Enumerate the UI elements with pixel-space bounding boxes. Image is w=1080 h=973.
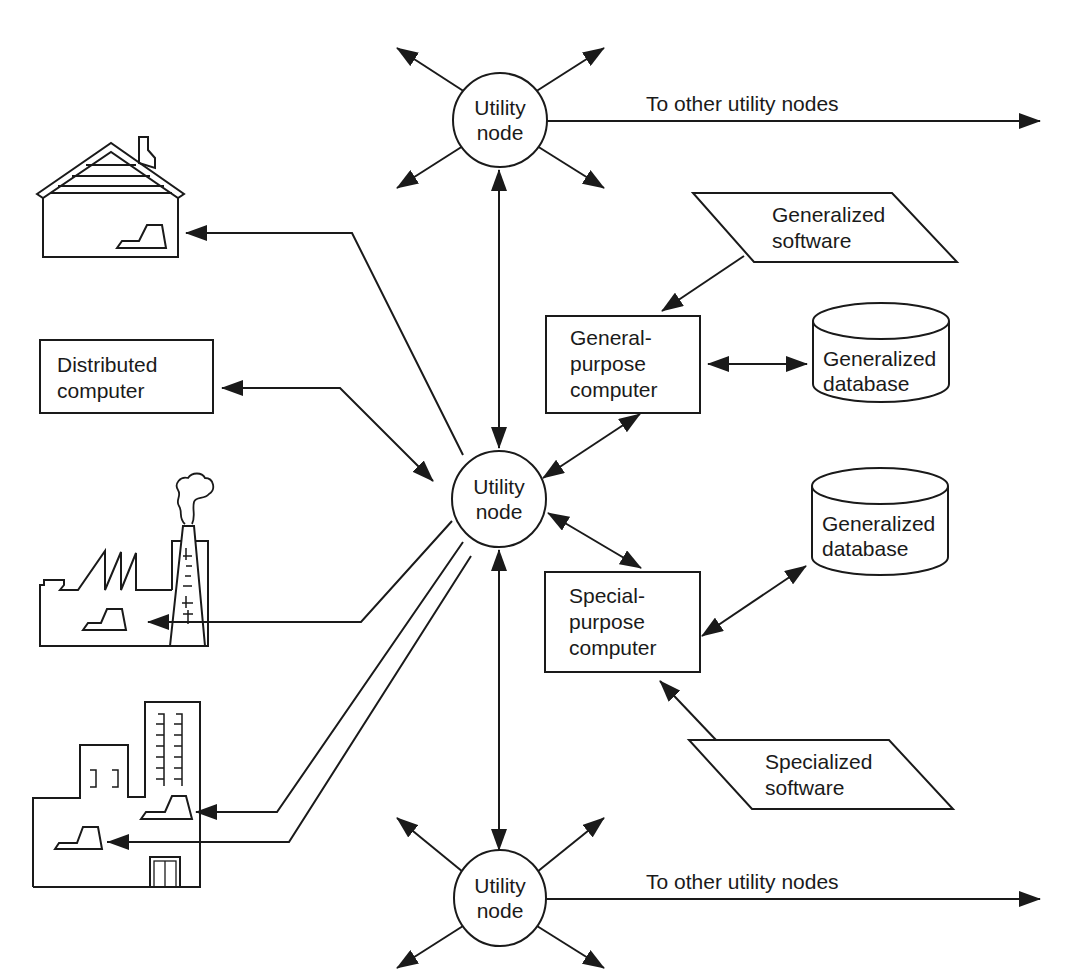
office-building-icon [33,702,200,887]
link-label: To other utility nodes [646,870,839,893]
link-center-office-upper [196,542,463,812]
box-label: Distributed [57,353,157,376]
general-purpose-computer-box: General- purpose computer [546,316,700,413]
utility-network-diagram: Utility node To other utility nodes Util… [0,0,1080,973]
box-label: General- [570,326,652,349]
radial-arrow [537,146,604,188]
utility-node-circle [452,451,546,547]
link-spc-database [702,566,806,636]
database-label: database [823,372,909,395]
box-label: computer [570,378,658,401]
database-cylinder-2: Generalized database [812,468,948,575]
utility-node-center: Utility node [452,451,546,547]
node-label: Utility [473,475,525,498]
specialized-software-shape: Specialized software [689,740,953,809]
database-label: Generalized [822,512,935,535]
node-label: node [477,121,524,144]
node-label: node [477,899,524,922]
radial-arrow [537,926,604,968]
generalized-software-shape: Generalized software [693,193,957,262]
database-cylinder-1: Generalized database [813,303,949,402]
radial-arrow [397,818,463,872]
house-icon [37,137,184,257]
link-software-spc [660,681,716,740]
software-label: Generalized [772,203,885,226]
radial-arrow [537,818,604,872]
software-label: Specialized [765,750,872,773]
node-label: Utility [474,874,526,897]
database-label: Generalized [823,347,936,370]
radial-arrow [397,926,463,968]
special-purpose-computer-box: Special- purpose computer [545,572,700,672]
box-label: computer [57,379,145,402]
utility-node-circle [454,850,546,946]
database-label: database [822,537,908,560]
software-label: software [765,776,844,799]
link-center-office-lower [108,556,471,842]
distributed-computer-box: Distributed computer [40,340,213,413]
utility-node-circle [453,73,547,167]
node-label: Utility [474,96,526,119]
factory-icon [40,474,213,647]
utility-node-top: Utility node To other utility nodes [397,48,1040,188]
utility-node-bottom: Utility node To other utility nodes [397,818,1040,968]
box-label: computer [569,636,657,659]
box-label: purpose [570,352,646,375]
link-software-gpc [662,256,744,311]
link-center-distributed [222,388,433,481]
link-center-gpc [543,414,640,478]
radial-arrow [397,48,465,92]
box-label: Special- [569,584,645,607]
software-label: software [772,229,851,252]
link-label: To other utility nodes [646,92,839,115]
box-label: purpose [569,610,645,633]
radial-arrow [535,48,604,92]
link-center-house [186,233,463,455]
link-center-spc [548,513,641,568]
node-label: node [476,500,523,523]
radial-arrow [397,146,463,188]
